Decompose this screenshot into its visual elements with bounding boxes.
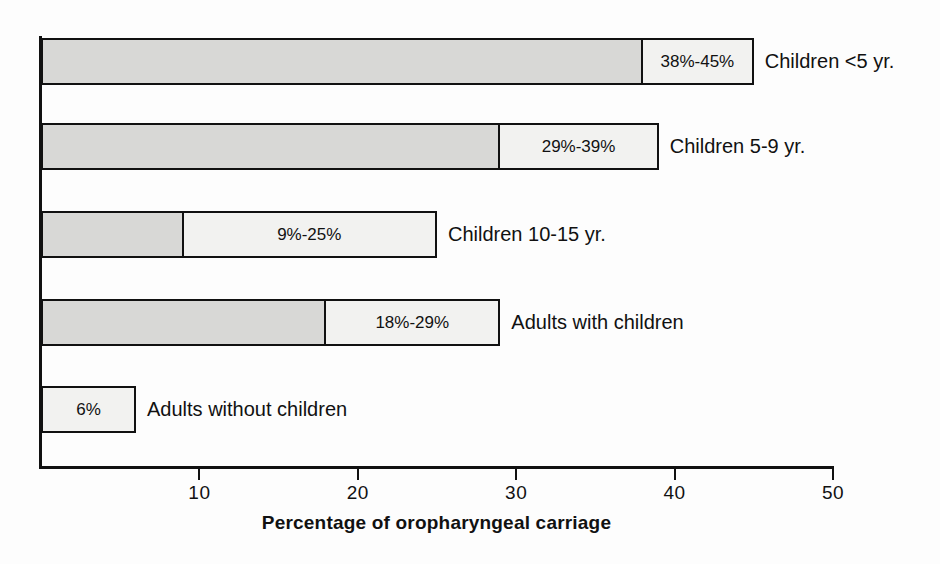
chart-container: 1020304050 38%-45%Children <5 yr.29%-39%… [0, 0, 940, 564]
bar-segment-low [43, 301, 326, 344]
bar-value-label: 29%-39% [536, 137, 622, 157]
bar[interactable]: 38%-45% [41, 38, 754, 85]
bar-category-label: Adults without children [136, 386, 347, 433]
bar-segment-high: 38%-45% [643, 40, 752, 83]
bar-row: 38%-45%Children <5 yr. [41, 38, 940, 85]
bar-value-label: 38%-45% [654, 52, 740, 72]
x-tick-label: 20 [328, 482, 388, 504]
x-axis-title: Percentage of oropharyngeal carriage [39, 512, 834, 534]
x-tick-mark [674, 469, 676, 480]
bar-category-label: Adults with children [500, 299, 683, 346]
bar-value-label: 18%-29% [369, 313, 455, 333]
bar[interactable]: 29%-39% [41, 123, 659, 170]
x-tick-label: 30 [486, 482, 546, 504]
bar-row: 6%Adults without children [41, 386, 940, 433]
bar[interactable]: 9%-25% [41, 211, 437, 258]
x-tick-mark [198, 469, 200, 480]
x-tick-label: 50 [803, 482, 863, 504]
bar-segment-low [43, 40, 643, 83]
bar-category-label: Children <5 yr. [754, 38, 895, 85]
bar-row: 9%-25%Children 10-15 yr. [41, 211, 940, 258]
bar-segment-high: 9%-25% [184, 213, 435, 256]
bar-value-label: 6% [70, 400, 107, 420]
bar-segment-low [43, 213, 184, 256]
bar-segment-high: 6% [43, 388, 134, 431]
bar-row: 29%-39%Children 5-9 yr. [41, 123, 940, 170]
bar-value-label: 9%-25% [271, 225, 347, 245]
bar-row: 18%-29%Adults with children [41, 299, 940, 346]
bar-segment-low [43, 125, 500, 168]
x-tick-label: 10 [169, 482, 229, 504]
bar-segment-high: 18%-29% [326, 301, 498, 344]
x-axis-line [39, 466, 834, 469]
bar-segment-high: 29%-39% [500, 125, 656, 168]
bar-category-label: Children 5-9 yr. [659, 123, 806, 170]
x-tick-mark [515, 469, 517, 480]
bar[interactable]: 18%-29% [41, 299, 500, 346]
x-tick-mark [832, 469, 834, 480]
x-tick-mark [357, 469, 359, 480]
x-tick-label: 40 [645, 482, 705, 504]
bar-category-label: Children 10-15 yr. [437, 211, 606, 258]
bar[interactable]: 6% [41, 386, 136, 433]
